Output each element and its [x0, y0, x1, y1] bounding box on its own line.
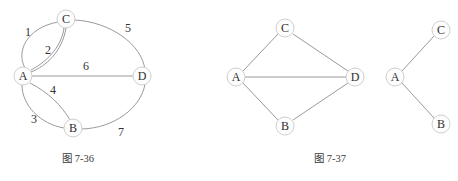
node-label: B [69, 121, 77, 135]
edge-weight-3: 3 [31, 112, 37, 126]
figure-7-37-left: C A D B 图 7-37 [227, 19, 364, 164]
node-label: C [62, 12, 70, 26]
graph-figures-canvas: C A D B 1 2 3 4 5 6 7 图 7-36 C [0, 0, 458, 181]
edge-weight-5: 5 [125, 21, 131, 35]
edge-a-b-weight-3 [22, 85, 64, 128]
node-a-figure-7-37-right: A [386, 68, 404, 86]
node-label: D [351, 70, 360, 84]
edge-weight-6: 6 [83, 59, 89, 73]
node-label: C [437, 23, 445, 37]
figure-7-37-right: C A B [386, 21, 450, 133]
edge-weight-1: 1 [25, 25, 31, 39]
node-d-figure-7-36: D [133, 67, 151, 85]
node-label: D [138, 69, 147, 83]
node-b-figure-7-37-left: B [276, 117, 294, 135]
edge-c-d [293, 34, 348, 71]
figure-caption-7-36: 图 7-36 [62, 153, 94, 164]
edge-weight-4: 4 [50, 83, 56, 97]
edge-a-c [243, 34, 278, 71]
edge-b-d-weight-7 [82, 84, 145, 129]
node-c-figure-7-37-right: C [432, 21, 450, 39]
node-c-figure-7-37-left: C [276, 19, 294, 37]
edge-a-b [243, 83, 278, 120]
edge-weight-2: 2 [45, 43, 51, 57]
node-label: A [232, 70, 241, 84]
node-label: A [19, 69, 28, 83]
node-a-figure-7-36: A [14, 67, 32, 85]
edge-a-b-tree [402, 83, 434, 118]
figure-7-36: C A D B 1 2 3 4 5 6 7 图 7-36 [14, 10, 151, 164]
edge-weight-7: 7 [118, 125, 124, 139]
node-label: C [281, 21, 289, 35]
edge-b-d [293, 83, 348, 120]
node-label: B [437, 117, 445, 131]
node-d-figure-7-37-left: D [346, 68, 364, 86]
node-label: A [391, 70, 400, 84]
node-a-figure-7-37-left: A [227, 68, 245, 86]
node-b-figure-7-37-right: B [432, 115, 450, 133]
edge-a-c-tree [402, 36, 434, 71]
node-b-figure-7-36: B [64, 119, 82, 137]
node-c-figure-7-36: C [57, 10, 75, 28]
figure-caption-7-37: 图 7-37 [314, 153, 346, 164]
node-label: B [281, 119, 289, 133]
